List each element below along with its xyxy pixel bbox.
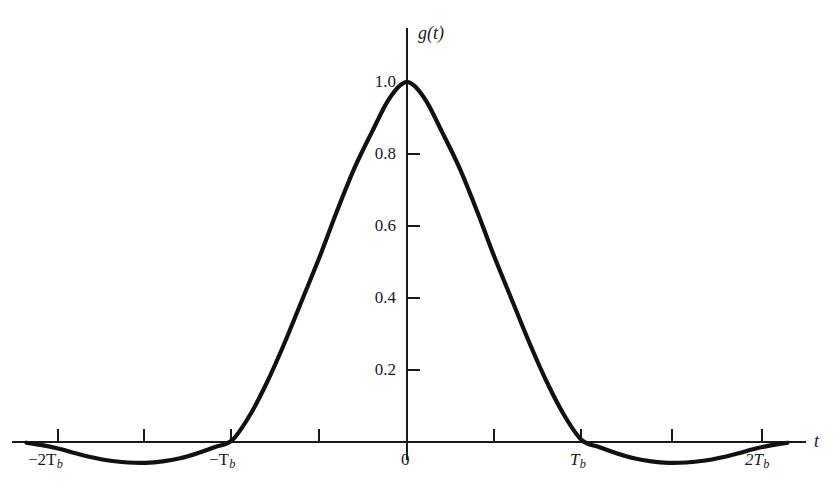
y-tick-label-0.2: 0.2 xyxy=(352,361,396,378)
y-tick-label-0.8: 0.8 xyxy=(352,145,396,162)
y-axis-label: g(t) xyxy=(418,24,444,42)
x-tick-label-minus-Tb: −Tb xyxy=(209,451,235,471)
x-tick-label-2Tb-subscript: b xyxy=(763,457,769,471)
chart-figure: 1.0 0.8 0.6 0.4 0.2 −2Tb −Tb 0 Tb 2Tb g(… xyxy=(0,0,840,500)
x-tick-label-zero: 0 xyxy=(401,451,410,468)
x-axis-label: t xyxy=(814,432,819,450)
plot-canvas xyxy=(0,0,840,500)
y-tick-label-0.6: 0.6 xyxy=(352,217,396,234)
x-tick-label-minus-Tb-main: −T xyxy=(209,450,229,469)
y-tick-marks xyxy=(407,154,420,370)
x-tick-label-Tb-subscript: b xyxy=(579,457,585,471)
x-tick-marks xyxy=(58,429,762,442)
y-tick-label-1.0: 1.0 xyxy=(352,73,396,90)
x-tick-label-Tb: Tb xyxy=(570,451,586,471)
x-tick-label-minus-2Tb-subscript: b xyxy=(56,457,62,471)
x-tick-label-minus-2Tb-main: −2T xyxy=(28,450,56,469)
x-tick-label-minus-2Tb: −2Tb xyxy=(28,451,63,471)
x-tick-label-2Tb: 2Tb xyxy=(745,451,769,471)
y-tick-label-0.4: 0.4 xyxy=(352,289,396,306)
x-tick-label-2Tb-main: 2T xyxy=(745,450,763,469)
x-tick-label-minus-Tb-subscript: b xyxy=(229,457,235,471)
